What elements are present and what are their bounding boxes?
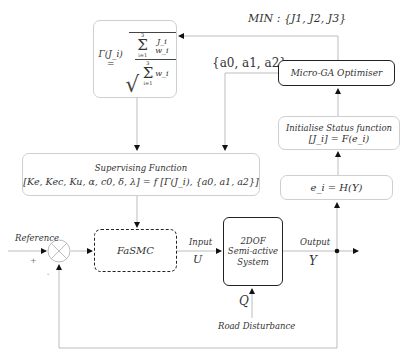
summing-junction xyxy=(48,240,70,262)
plant-box: 2DOF Semi-active System xyxy=(223,217,283,286)
reference-label: Reference xyxy=(15,233,59,243)
plus-sign: + xyxy=(30,256,37,265)
init-status-title: Initialise Status function xyxy=(286,123,392,133)
minus-sign: - xyxy=(47,270,49,278)
disturbance-label: Road Disturbance xyxy=(218,321,295,331)
plant-line-3: System xyxy=(237,257,269,268)
init-status-formula: [J_i] = F(e_i) xyxy=(309,133,369,144)
coefficient-set-label: {a0, a1, a2} xyxy=(212,56,287,70)
supervising-function-box: Supervising Function [Ke, Kec, Ku, α, c0… xyxy=(22,153,260,196)
plant-line-2: Semi-active xyxy=(228,246,278,257)
output-label: Output xyxy=(300,237,330,247)
initialise-status-box: Initialise Status function [J_i] = F(e_i… xyxy=(278,116,400,150)
disturbance-symbol: Q xyxy=(239,294,249,308)
micro-ga-optimiser-box: Micro-GA Optimiser xyxy=(278,60,395,86)
root-sign: √ xyxy=(125,74,139,96)
min-objective-label: MIN : {J1, J2, J3} xyxy=(248,12,346,25)
input-symbol: U xyxy=(193,253,202,266)
fasmc-controller-box: FaSMC xyxy=(94,229,177,272)
control-diagram: Γ(J_i) = √ 3Σi=1 J_i w_i 3Σi=1 w_i MIN :… xyxy=(0,0,409,359)
output-symbol: Y xyxy=(309,254,317,268)
plant-line-1: 2DOF xyxy=(240,236,265,247)
optimiser-label: Micro-GA Optimiser xyxy=(291,68,383,78)
error-formula: e_i = H(Y) xyxy=(311,182,363,193)
gamma-lhs: Γ(J_i) = xyxy=(94,49,127,69)
output-junction-dot xyxy=(335,249,340,254)
error-function-box: e_i = H(Y) xyxy=(280,175,393,200)
fitness-aggregation-box: Γ(J_i) = √ 3Σi=1 J_i w_i 3Σi=1 w_i xyxy=(93,20,177,98)
fasmc-label: FaSMC xyxy=(117,245,154,256)
supervising-title: Supervising Function xyxy=(95,163,187,173)
input-label: Input xyxy=(189,237,212,247)
supervising-formula: [Ke, Kec, Ku, α, c0, δ, λ] = f [Γ(J_i), … xyxy=(23,176,258,187)
